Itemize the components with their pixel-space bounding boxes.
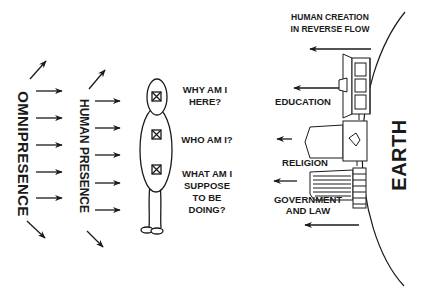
question-line: WHO AM I? bbox=[181, 134, 233, 145]
human-figure bbox=[140, 79, 172, 234]
question-who: WHO AM I? bbox=[181, 134, 233, 145]
earth-label: EARTH bbox=[388, 119, 410, 190]
figure-body bbox=[140, 108, 172, 192]
religion-label: RELIGION bbox=[282, 157, 328, 168]
question-what: WHAT AM I SUPPOSE TO BE DOING? bbox=[182, 168, 232, 215]
question-line: SUPPOSE bbox=[184, 180, 230, 191]
question-line: HERE? bbox=[189, 96, 221, 107]
label-line: GOVERNMENT bbox=[274, 194, 342, 205]
question-line: DOING? bbox=[189, 204, 226, 215]
label-line: AND LAW bbox=[286, 205, 330, 216]
question-line: TO BE bbox=[193, 192, 222, 203]
government-label: GOVERNMENT AND LAW bbox=[274, 194, 342, 216]
question-why: WHY AM I HERE? bbox=[183, 84, 227, 107]
arrow-icon bbox=[30, 61, 46, 79]
question-line: WHY AM I bbox=[183, 84, 227, 95]
arrow-icon bbox=[87, 231, 103, 247]
header-line: IN REVERSE FLOW bbox=[291, 24, 371, 34]
question-line: WHAT AM I bbox=[182, 168, 232, 179]
arrow-icon bbox=[27, 221, 45, 238]
human-presence-label: HUMAN PRESENCE bbox=[77, 99, 91, 213]
diagram-canvas: OMNIPRESENCE HUMAN PRESENCE WH bbox=[0, 0, 422, 300]
arrow-icon bbox=[89, 70, 105, 89]
omnipresence-label: OMNIPRESENCE bbox=[15, 91, 32, 216]
reverse-flow-header: HUMAN CREATION IN REVERSE FLOW bbox=[291, 12, 371, 34]
header-line: HUMAN CREATION bbox=[291, 12, 369, 22]
figure-foot-right bbox=[151, 228, 163, 234]
education-building-icon bbox=[339, 54, 370, 120]
education-label: EDUCATION bbox=[275, 96, 331, 107]
